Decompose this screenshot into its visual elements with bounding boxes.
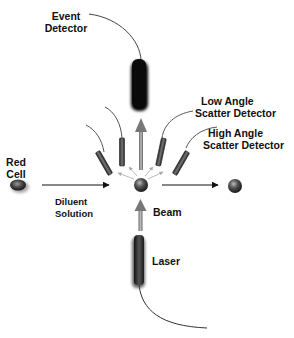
beam-arrow-shaft bbox=[139, 209, 143, 231]
diluent-label: Diluent Solution bbox=[55, 196, 93, 220]
high-angle-detector-right bbox=[172, 150, 189, 175]
high-angle-label-line2: Scatter Detector bbox=[203, 139, 284, 151]
event-detector bbox=[132, 59, 146, 108]
diagram-canvas bbox=[0, 0, 294, 338]
forward-scatter-arrow-head bbox=[135, 118, 147, 132]
event-detector-label-line1: Event bbox=[38, 10, 94, 22]
red-cell-label: Red Cell bbox=[2, 156, 30, 180]
beam-label: Beam bbox=[153, 206, 182, 218]
red-cell-label-line2: Cell bbox=[2, 168, 30, 180]
high-angle-label: High Angle Scatter Detector bbox=[203, 127, 284, 151]
event-detector-label-line2: Detector bbox=[38, 22, 94, 34]
low-angle-label-line1: Low Angle bbox=[195, 95, 276, 107]
cell-in-beam bbox=[134, 178, 148, 192]
forward-scatter-arrow-shaft bbox=[139, 130, 143, 170]
event-detector-cable bbox=[89, 14, 141, 60]
exited-cell bbox=[228, 179, 242, 193]
low-angle-cable-left bbox=[105, 107, 122, 138]
low-angle-label: Low Angle Scatter Detector bbox=[195, 95, 276, 119]
red-cell bbox=[10, 180, 26, 191]
laser-cable bbox=[139, 285, 207, 328]
laser-body bbox=[134, 235, 144, 285]
scatter-ray-1 bbox=[118, 173, 134, 179]
low-angle-cable-right bbox=[162, 111, 193, 138]
diluent-label-line1: Diluent bbox=[55, 196, 93, 208]
diluent-label-line2: Solution bbox=[55, 208, 93, 220]
laser-label: Laser bbox=[152, 255, 180, 267]
low-angle-label-line2: Scatter Detector bbox=[195, 107, 276, 119]
event-detector-label: Event Detector bbox=[38, 10, 94, 34]
scatter-ray-4 bbox=[148, 172, 163, 179]
high-angle-detector-left bbox=[95, 150, 112, 175]
high-angle-label-line1: High Angle bbox=[203, 127, 284, 139]
low-angle-detector-right bbox=[156, 138, 167, 166]
red-cell-label-line1: Red bbox=[2, 156, 30, 168]
beam-arrow-head bbox=[135, 199, 147, 211]
high-angle-cable-left bbox=[86, 125, 104, 152]
scatter-ray-3 bbox=[145, 167, 153, 176]
scatter-ray-2 bbox=[129, 167, 137, 176]
low-angle-detector-left bbox=[120, 138, 125, 166]
